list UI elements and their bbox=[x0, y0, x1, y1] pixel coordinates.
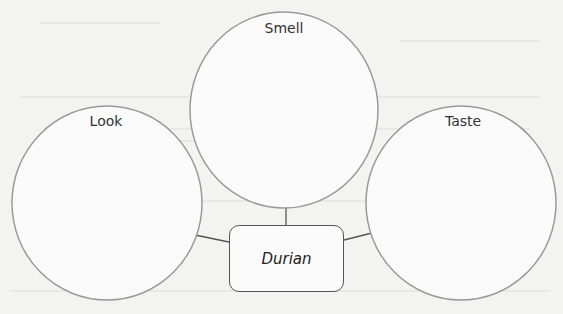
concept-map: Smell Look Taste Durian bbox=[0, 0, 563, 314]
connector-look bbox=[195, 235, 229, 242]
taste-label: Taste bbox=[445, 113, 481, 129]
smell-circle bbox=[190, 12, 378, 208]
connector-taste bbox=[344, 233, 372, 240]
look-circle bbox=[12, 106, 202, 300]
center-topic-box: Durian bbox=[229, 225, 344, 292]
taste-circle bbox=[366, 106, 556, 300]
center-topic-label: Durian bbox=[261, 250, 311, 268]
smell-label: Smell bbox=[265, 20, 304, 36]
look-label: Look bbox=[90, 113, 123, 129]
